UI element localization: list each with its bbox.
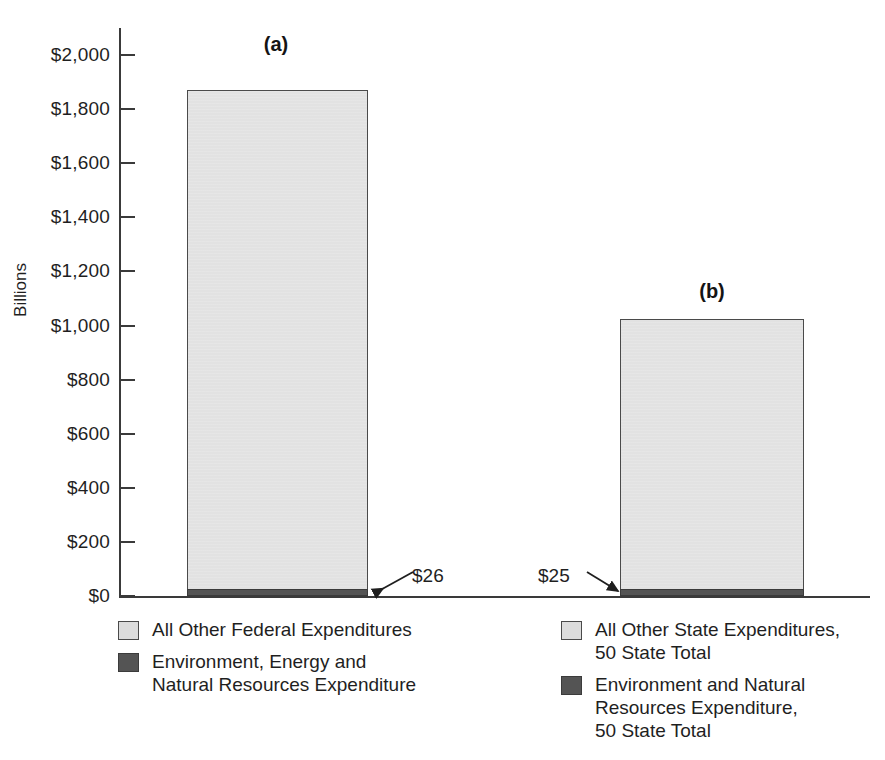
y-axis-tick-label: $1,600 <box>51 153 110 172</box>
legend-item: All Other Federal Expenditures <box>118 618 498 641</box>
legend-item-label: All Other Federal Expenditures <box>152 618 412 641</box>
bar-b-dark-segment <box>620 589 804 596</box>
y-axis-tick-label: $2,000 <box>51 45 110 64</box>
y-axis-tick-label-wrap: $1,200 <box>0 271 110 272</box>
y-axis-tick-label-wrap: $1,400 <box>0 217 110 218</box>
y-axis-tick-label-wrap: $2,000 <box>0 55 110 56</box>
y-axis-tick <box>121 270 135 272</box>
y-axis-tick-label: $200 <box>67 532 110 551</box>
y-axis-tick-label: $1,000 <box>51 316 110 335</box>
y-axis-tick <box>121 162 135 164</box>
x-axis-line <box>119 596 870 598</box>
y-axis-tick-label: $1,200 <box>51 261 110 280</box>
legend-item-label: Environment, Energy and Natural Resource… <box>152 650 416 696</box>
y-axis-tick <box>121 108 135 110</box>
y-axis-tick <box>121 325 135 327</box>
y-axis-line <box>119 28 121 598</box>
y-axis-tick-label: $1,400 <box>51 207 110 226</box>
y-axis-tick <box>121 595 135 597</box>
y-axis-tick-label-wrap: $600 <box>0 434 110 435</box>
bar-a-dark-segment <box>187 589 368 596</box>
y-axis-tick-label-wrap: $1,600 <box>0 163 110 164</box>
y-axis-tick <box>121 216 135 218</box>
callout-state-arrow <box>585 560 635 600</box>
callout-state-label: $25 <box>538 566 570 585</box>
legend-item: Environment, Energy and Natural Resource… <box>118 650 498 696</box>
plot-area: Billions $2,000$1,800$1,600$1,400$1,200$… <box>0 0 885 620</box>
legend-swatch-light-icon <box>118 621 139 640</box>
legend-left: All Other Federal Expenditures Environme… <box>118 618 498 705</box>
legend-swatch-dark-icon <box>118 653 139 672</box>
bar-b-light-segment <box>620 319 804 591</box>
y-axis-tick-label-wrap: $400 <box>0 488 110 489</box>
y-axis-tick-label-wrap: $1,000 <box>0 326 110 327</box>
y-axis-tick <box>121 541 135 543</box>
legend-right: All Other State Expenditures, 50 State T… <box>561 618 881 751</box>
legend-item: All Other State Expenditures, 50 State T… <box>561 618 881 664</box>
callout-federal-arrow <box>368 560 428 600</box>
y-axis-tick-label: $600 <box>67 424 110 443</box>
y-axis-tick <box>121 54 135 56</box>
y-axis-tick-label-wrap: $200 <box>0 542 110 543</box>
legend-swatch-dark-icon <box>561 676 582 695</box>
bar-b-letter: (b) <box>662 280 762 303</box>
y-axis-tick-label-wrap: $0 <box>0 596 110 597</box>
legend-swatch-light-icon <box>561 621 582 640</box>
y-axis-tick-label: $0 <box>88 586 110 605</box>
y-axis-tick-label-wrap: $1,800 <box>0 109 110 110</box>
y-axis-tick <box>121 433 135 435</box>
y-axis-tick-label: $800 <box>67 370 110 389</box>
legend-item: Environment and Natural Resources Expend… <box>561 673 881 742</box>
y-axis-tick-label: $1,800 <box>51 99 110 118</box>
y-axis-tick <box>121 379 135 381</box>
chart-figure: Billions $2,000$1,800$1,600$1,400$1,200$… <box>0 0 885 760</box>
y-axis-tick-label: $400 <box>67 478 110 497</box>
y-axis-title: Billions <box>11 245 31 335</box>
legend-item-label: All Other State Expenditures, 50 State T… <box>595 618 840 664</box>
bar-a-letter: (a) <box>226 33 326 56</box>
bar-a-light-segment <box>187 90 368 591</box>
y-axis-tick-label-wrap: $800 <box>0 380 110 381</box>
y-axis-tick <box>121 487 135 489</box>
legend-item-label: Environment and Natural Resources Expend… <box>595 673 805 742</box>
